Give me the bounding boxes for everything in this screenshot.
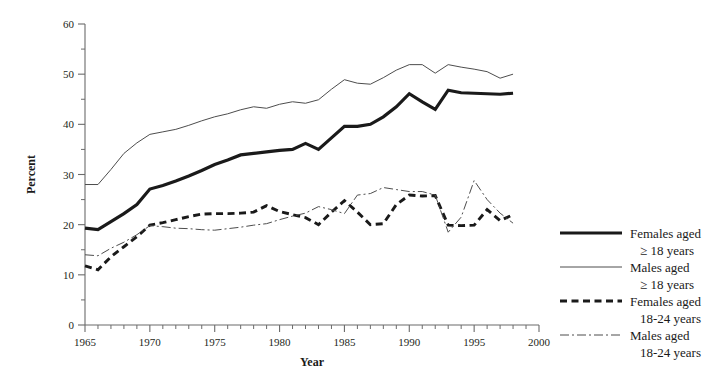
y-tick-label: 50	[63, 68, 75, 80]
legend-label-sub-1[interactable]: ≥ 18 years	[640, 277, 694, 292]
legend-label-sub-0[interactable]: ≥ 18 years	[640, 243, 694, 258]
chart-axes	[78, 24, 539, 332]
series-line-1	[85, 65, 513, 185]
x-tick-label: 1985	[333, 336, 356, 348]
chart-labels: 0102030405060196519701975198019851990199…	[24, 18, 551, 369]
y-tick-label: 10	[63, 269, 75, 281]
legend-label-0[interactable]: Females aged	[630, 226, 702, 241]
x-tick-label: 1990	[398, 336, 421, 348]
legend-label-1[interactable]: Males aged	[630, 260, 690, 275]
line-chart: 0102030405060196519701975198019851990199…	[0, 0, 719, 374]
y-axis-title: Percent	[24, 155, 38, 194]
legend-label-sub-2[interactable]: 18-24 years	[640, 311, 701, 326]
x-tick-label: 2000	[528, 336, 551, 348]
y-tick-label: 0	[69, 319, 75, 331]
chart-legend: Females aged≥ 18 yearsMales aged≥ 18 yea…	[560, 226, 702, 360]
series-line-0	[85, 90, 513, 229]
legend-label-2[interactable]: Females aged	[630, 294, 702, 309]
y-tick-label: 30	[63, 169, 75, 181]
chart-series	[85, 65, 513, 270]
legend-label-3[interactable]: Males aged	[630, 328, 690, 343]
x-axis-title: Year	[300, 355, 325, 369]
y-tick-label: 60	[63, 18, 75, 30]
legend-label-sub-3[interactable]: 18-24 years	[640, 345, 701, 360]
x-tick-label: 1965	[74, 336, 97, 348]
y-tick-label: 40	[63, 118, 75, 130]
x-tick-label: 1995	[463, 336, 486, 348]
x-tick-label: 1975	[204, 336, 227, 348]
y-tick-label: 20	[63, 219, 75, 231]
series-line-2	[85, 195, 513, 270]
x-tick-label: 1980	[269, 336, 292, 348]
chart-page: 0102030405060196519701975198019851990199…	[0, 0, 719, 374]
x-tick-label: 1970	[139, 336, 162, 348]
